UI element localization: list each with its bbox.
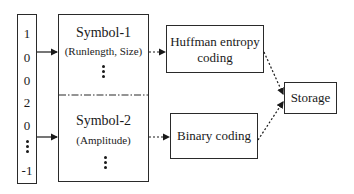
arrow-huffman-to-storage xyxy=(264,52,283,94)
symbol-box: Symbol-1 (Runlength, Size) Symbol-2 (Amp… xyxy=(58,14,149,182)
symbol1-subtitle: (Runlength, Size) xyxy=(59,45,148,57)
huffman-label-line2: coding xyxy=(167,50,263,66)
symbol1-title: Symbol-1 xyxy=(59,25,148,41)
input-sequence-box: 1 0 0 2 0 -1 xyxy=(17,14,37,184)
storage-label: Storage xyxy=(285,90,336,106)
binary-label: Binary coding xyxy=(171,128,257,144)
sequence-value: 0 xyxy=(18,51,36,65)
arrow-binary-to-storage xyxy=(258,102,283,140)
storage-box: Storage xyxy=(284,82,337,114)
sequence-value: 1 xyxy=(18,27,36,41)
ellipsis-icon xyxy=(25,140,29,155)
sequence-value: -1 xyxy=(18,164,36,178)
symbol2-subtitle: (Amplitude) xyxy=(59,134,148,146)
binary-coding-box: Binary coding xyxy=(170,113,258,159)
huffman-coding-box: Huffman entropy coding xyxy=(166,25,264,73)
sequence-value: 0 xyxy=(18,74,36,88)
ellipsis-icon xyxy=(101,65,105,80)
symbol2-title: Symbol-2 xyxy=(59,113,148,129)
sequence-value: 0 xyxy=(18,119,36,133)
sequence-value: 2 xyxy=(18,96,36,110)
huffman-label-line1: Huffman entropy xyxy=(167,34,263,50)
ellipsis-icon xyxy=(103,156,107,171)
